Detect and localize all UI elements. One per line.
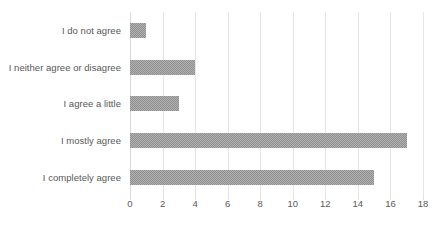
bar[interactable]: [130, 96, 179, 111]
x-tick-label: 14: [353, 198, 364, 209]
category-label-slot: I neither agree or disagree: [0, 49, 126, 86]
gridline: [423, 12, 424, 196]
category-label-slot: I do not agree: [0, 12, 126, 49]
category-label: I completely agree: [43, 172, 126, 183]
plot-area: [130, 12, 423, 196]
bar[interactable]: [130, 60, 195, 75]
x-tick-label: 2: [160, 198, 165, 209]
x-tick-label: 0: [127, 198, 132, 209]
bar-slot: [130, 49, 195, 86]
x-tick-label: 6: [225, 198, 230, 209]
bar-slot: [130, 86, 179, 123]
category-label-slot: I mostly agree: [0, 122, 126, 159]
category-label: I do not agree: [62, 25, 126, 36]
category-label: I mostly agree: [61, 135, 126, 146]
category-label: I agree a little: [63, 98, 126, 109]
bar-chart: I do not agree I neither agree or disagr…: [0, 0, 443, 234]
x-tick-label: 16: [385, 198, 396, 209]
x-tick-label: 18: [418, 198, 429, 209]
category-label-slot: I completely agree: [0, 159, 126, 196]
gridline: [390, 12, 391, 196]
category-axis: I do not agree I neither agree or disagr…: [0, 12, 126, 196]
bar-slot: [130, 159, 374, 196]
bar-slot: [130, 122, 407, 159]
x-tick-label: 8: [258, 198, 263, 209]
bar[interactable]: [130, 170, 374, 185]
bar-slot: [130, 12, 146, 49]
bar[interactable]: [130, 133, 407, 148]
bar[interactable]: [130, 23, 146, 38]
category-label-slot: I agree a little: [0, 86, 126, 123]
x-tick-label: 4: [192, 198, 197, 209]
x-tick-label: 10: [287, 198, 298, 209]
category-label: I neither agree or disagree: [9, 62, 126, 73]
x-tick-label: 12: [320, 198, 331, 209]
value-axis: 024681012141618: [130, 198, 423, 214]
